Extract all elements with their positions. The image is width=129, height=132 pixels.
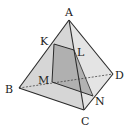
label-m: M — [38, 74, 49, 87]
label-k: K — [40, 35, 49, 48]
label-l: L — [77, 46, 85, 59]
label-n: N — [95, 95, 105, 108]
tetrahedron-diagram: A B C D K L M N — [0, 0, 129, 132]
label-c: C — [81, 115, 89, 128]
label-a: A — [64, 6, 74, 19]
label-b: B — [5, 83, 13, 96]
label-d: D — [115, 69, 124, 82]
